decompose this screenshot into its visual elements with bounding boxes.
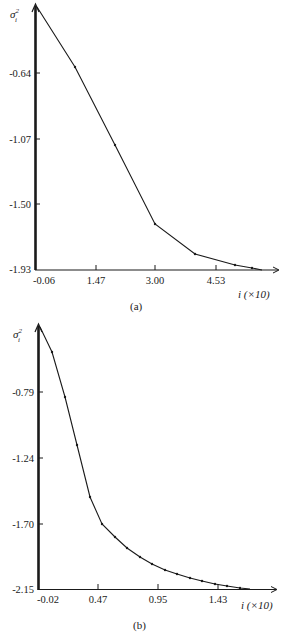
y-tick-b-3: -1.70 xyxy=(12,519,34,530)
y-tick-b-2: -1.24 xyxy=(12,453,35,464)
panel-label-a: (a) xyxy=(130,300,142,312)
x-tick-b-1: -0.02 xyxy=(37,594,59,605)
x-tick-b-3: 0.95 xyxy=(149,594,167,605)
y-tick-b-1: -0.79 xyxy=(12,387,34,398)
y-axis-title-a: σ2i xyxy=(10,7,19,24)
y-axis-title-b: σ2i xyxy=(13,327,22,344)
x-tick-a-3: 3.00 xyxy=(146,275,164,286)
x-tick-b-4: 1.43 xyxy=(209,594,227,605)
x-tick-b-2: 0.47 xyxy=(89,594,107,605)
x-axis-title-a: i (×10) xyxy=(238,288,270,301)
x-axis-title-b: i (×10) xyxy=(241,599,273,612)
figure-canvas: -0.64 -1.07 -1.50 -1.93 -0.06 1.47 3.00 … xyxy=(0,0,286,641)
x-tick-a-4: 4.53 xyxy=(207,275,225,286)
series-line-a xyxy=(37,7,262,270)
y-tick-a-3: -1.50 xyxy=(9,199,31,210)
chart-b: -0.79 -1.24 -1.70 -2.15 -0.02 0.47 0.95 … xyxy=(12,324,277,612)
panel-label-b: (b) xyxy=(133,619,146,631)
y-tick-b-4: -2.15 xyxy=(12,584,34,595)
x-tick-a-2: 1.47 xyxy=(87,275,105,286)
x-tick-a-1: -0.06 xyxy=(33,275,55,286)
chart-a: -0.64 -1.07 -1.50 -1.93 -0.06 1.47 3.00 … xyxy=(9,4,279,301)
y-tick-a-4: -1.93 xyxy=(9,264,31,275)
data-points-a xyxy=(74,66,253,269)
series-line-b xyxy=(40,327,250,589)
y-tick-a-2: -1.07 xyxy=(9,134,31,145)
y-tick-a-1: -0.64 xyxy=(9,68,32,79)
data-points-b xyxy=(51,351,241,589)
